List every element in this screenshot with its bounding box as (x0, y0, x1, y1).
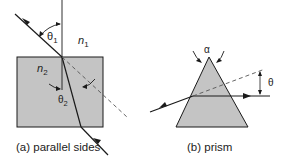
refraction-diagram: θ1 n1 n2 θ2 (a) parallel sides α θ (b) p… (0, 0, 287, 165)
alpha-left-arrow-icon (196, 58, 202, 63)
panel-b-prism: α θ (b) prism (150, 44, 274, 153)
prism-exit-arrow-icon (243, 93, 251, 99)
theta1-label: θ1 (47, 30, 58, 45)
caption-b: (b) prism (187, 141, 232, 153)
glass-block (17, 57, 103, 127)
theta-deviation-label: θ (268, 77, 274, 88)
theta1-arc-arrow-end-icon (56, 22, 61, 26)
prism-triangle (176, 57, 248, 127)
panel-a-parallel-sides: θ1 n1 n2 θ2 (a) parallel sides (15, 0, 127, 155)
deviation-arrow-up-icon (258, 71, 262, 76)
alpha-label: α (204, 44, 210, 55)
alpha-right-arrow-icon (216, 58, 222, 63)
deviation-arrow-down-icon (258, 90, 262, 95)
n1-label: n1 (78, 34, 89, 49)
caption-a: (a) parallel sides (16, 141, 101, 153)
